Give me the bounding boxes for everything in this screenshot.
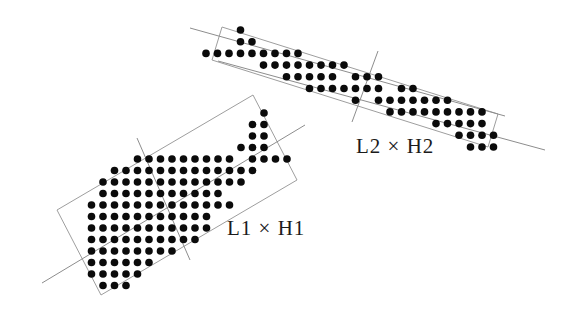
particle-dot xyxy=(444,120,452,128)
particle-dot xyxy=(99,236,107,244)
particle-dot xyxy=(99,201,107,209)
particle-dot xyxy=(237,178,245,186)
particle-dot xyxy=(168,247,176,255)
particle-dot xyxy=(432,108,440,116)
particle-dot xyxy=(260,61,268,69)
particle-dot xyxy=(375,96,383,104)
particle-dot xyxy=(145,224,153,232)
particle-dot xyxy=(237,38,245,46)
particle-dot xyxy=(294,73,302,81)
particle-dot xyxy=(409,96,417,104)
particle-dot xyxy=(99,213,107,221)
particle-dot xyxy=(329,73,337,81)
particle-dot xyxy=(317,73,325,81)
particle-dot xyxy=(260,109,268,117)
particle-dot xyxy=(260,121,268,129)
particle-dot xyxy=(111,247,119,255)
particle-dot xyxy=(478,132,486,140)
particle-dot xyxy=(134,236,142,244)
particle-dot xyxy=(168,224,176,232)
particle-dot xyxy=(444,108,452,116)
particle-dot xyxy=(88,259,96,267)
particle-dot xyxy=(157,247,165,255)
particle-dot xyxy=(203,190,211,198)
particle-dot xyxy=(99,247,107,255)
particle-dot xyxy=(248,38,256,46)
particle-dot xyxy=(88,270,96,278)
particle-dot xyxy=(214,190,222,198)
particle-dot xyxy=(145,167,153,175)
particle-dot xyxy=(180,167,188,175)
particle-dot xyxy=(271,50,279,58)
particle-dot xyxy=(157,155,165,163)
particle-dot xyxy=(191,178,199,186)
particle-dot xyxy=(271,61,279,69)
particle-dot xyxy=(237,167,245,175)
particle-dot xyxy=(111,270,119,278)
particle-dot xyxy=(145,247,153,255)
particle-dot xyxy=(99,190,107,198)
particle-dot xyxy=(329,61,337,69)
particle-dot xyxy=(226,167,234,175)
particle-dot xyxy=(99,224,107,232)
particle-dot xyxy=(134,178,142,186)
particle-dot xyxy=(122,259,130,267)
particle-dot xyxy=(180,236,188,244)
particle-dot xyxy=(260,50,268,58)
particle-dot xyxy=(180,213,188,221)
particle-dot xyxy=(168,178,176,186)
particle-dot xyxy=(386,96,394,104)
particle-dot xyxy=(375,73,383,81)
particle-dot xyxy=(168,155,176,163)
particle-dot xyxy=(111,213,119,221)
particle-dot xyxy=(157,236,165,244)
particle-dot xyxy=(214,201,222,209)
particle-dot xyxy=(352,85,360,93)
particle-dot xyxy=(386,108,394,116)
particle-dot xyxy=(467,108,475,116)
particle-dot xyxy=(248,50,256,58)
particle-dot xyxy=(455,120,463,128)
particle-dot xyxy=(432,96,440,104)
particle-dot xyxy=(249,132,257,140)
particle-dot xyxy=(203,167,211,175)
particle-dot xyxy=(340,85,348,93)
particle-dot xyxy=(88,213,96,221)
particle-dot xyxy=(444,96,452,104)
particle-dot xyxy=(294,61,302,69)
particle-dot xyxy=(306,61,314,69)
particle-dot xyxy=(134,201,142,209)
particle-dot xyxy=(409,85,417,93)
particle-dot xyxy=(111,167,119,175)
particle-dot xyxy=(111,236,119,244)
particle-dot xyxy=(145,190,153,198)
particle-dot xyxy=(180,178,188,186)
particle-dot xyxy=(191,236,199,244)
particle-dot xyxy=(191,190,199,198)
particle-dot xyxy=(398,108,406,116)
particle-dot xyxy=(168,236,176,244)
particle-dot xyxy=(203,178,211,186)
particle-dot xyxy=(398,96,406,104)
particle-dot xyxy=(317,61,325,69)
particle-dot xyxy=(180,190,188,198)
particle-dot xyxy=(168,213,176,221)
particle-dot xyxy=(122,270,130,278)
particle-dot xyxy=(122,282,130,290)
particle-dot xyxy=(214,155,222,163)
particle-dot xyxy=(88,247,96,255)
particle-dot xyxy=(306,73,314,81)
particle-dot xyxy=(145,178,153,186)
particle-dot xyxy=(157,201,165,209)
particle-dot xyxy=(122,224,130,232)
particle-dot xyxy=(180,201,188,209)
particle-dot xyxy=(191,155,199,163)
sampling-windows-diagram xyxy=(0,0,561,311)
particle-dot xyxy=(260,144,268,152)
particle-dot xyxy=(111,178,119,186)
particle-dot xyxy=(421,108,429,116)
particle-dot xyxy=(225,50,233,58)
particle-dot xyxy=(134,190,142,198)
particle-dot xyxy=(168,167,176,175)
particle-dot xyxy=(283,73,291,81)
